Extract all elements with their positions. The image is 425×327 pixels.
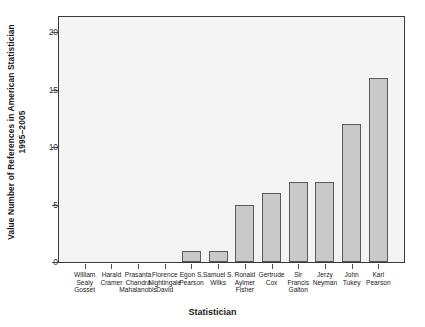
bar — [315, 182, 334, 262]
bar — [369, 78, 388, 262]
bar — [342, 124, 361, 262]
x-axis-title: Statistician — [0, 307, 425, 317]
x-tick-mark — [191, 264, 192, 269]
x-tick-mark — [165, 264, 166, 269]
x-tick-label-line: David — [145, 286, 185, 294]
bar — [289, 182, 308, 262]
x-tick-label-line: Fisher — [225, 286, 265, 294]
bar — [182, 251, 201, 262]
x-tick-mark — [352, 264, 353, 269]
x-tick-mark — [111, 264, 112, 269]
y-tick-label: 5 — [34, 201, 58, 209]
bar-chart-figure: Value Number of References in American S… — [0, 0, 425, 327]
y-axis-title-line2: 1995–2005 — [17, 24, 28, 240]
x-tick-mark — [138, 264, 139, 269]
x-tick-label-line: Gosset — [65, 286, 105, 294]
y-tick-label: 10 — [34, 143, 58, 151]
x-tick-mark — [298, 264, 299, 269]
bar — [235, 205, 254, 262]
y-tick-label: 20 — [34, 28, 58, 36]
y-axis-title: Value Number of References in American S… — [0, 0, 34, 263]
x-tick-label-line: Karl — [358, 271, 398, 279]
x-tick-mark — [245, 264, 246, 269]
x-tick-mark — [85, 264, 86, 269]
bar-series — [58, 16, 405, 263]
bar — [209, 251, 228, 262]
x-tick-label-line: Galton — [278, 286, 318, 294]
x-tick-label-line: Pearson — [358, 279, 398, 287]
x-tick-mark — [272, 264, 273, 269]
x-tick-label: KarlPearson — [358, 271, 398, 286]
x-tick-mark — [218, 264, 219, 269]
y-axis-title-line1: Value Number of References in American S… — [6, 24, 16, 240]
x-tick-mark — [378, 264, 379, 269]
x-tick-mark — [325, 264, 326, 269]
bar — [262, 193, 281, 262]
y-tick-label: 0 — [34, 258, 58, 266]
y-tick-label: 15 — [34, 86, 58, 94]
